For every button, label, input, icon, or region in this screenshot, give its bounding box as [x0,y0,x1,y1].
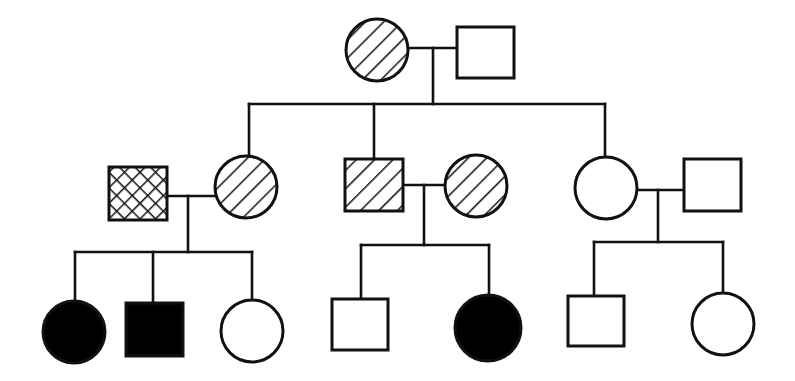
male-square-ii-6-unaffected [684,159,741,211]
pedigree-canvas [0,0,795,381]
male-square-i-2-unaffected [457,27,514,78]
male-square-iii-2-affected [126,303,183,356]
female-circle-ii-4-diagonal-hatch [445,155,507,217]
male-square-ii-3-diagonal-hatch [345,159,403,211]
female-circle-iii-1-affected [43,301,105,363]
female-circle-ii-5-unaffected [575,157,637,219]
male-square-ii-1-cross-hatch [109,167,167,220]
female-circle-iii-7-unaffected [692,293,754,355]
female-circle-iii-5-affected [455,295,521,361]
female-circle-iii-3-unaffected [221,300,283,362]
female-circle-i-1-diagonal-hatch [346,19,408,81]
male-square-iii-4-unaffected [332,299,388,350]
pedigree-diagram [0,0,795,381]
male-square-iii-6-unaffected [568,296,624,346]
female-circle-ii-2-diagonal-hatch [215,156,277,218]
